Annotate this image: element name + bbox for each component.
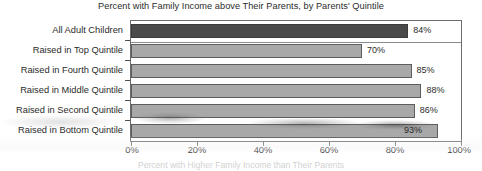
category-label: Raised in Second Quintile [0, 105, 123, 115]
bar-row: 86% [131, 101, 461, 121]
bar-value-label: 88% [421, 85, 444, 95]
category-label: Raised in Fourth Quintile [0, 65, 123, 75]
bar-row: 88% [131, 81, 461, 101]
bar [131, 84, 421, 98]
x-axis-tick-label: 20% [188, 145, 207, 155]
category-label: All Adult Children [0, 25, 123, 35]
y-axis-tick [125, 40, 130, 41]
bar [131, 44, 362, 58]
bar [131, 24, 408, 38]
chart-title: Percent with Family Income above Their P… [0, 1, 482, 11]
y-axis-tick [125, 100, 130, 101]
bar-value-label: 86% [415, 105, 438, 115]
category-label: Raised in Bottom Quintile [0, 125, 123, 135]
x-axis-tick-label: 80% [386, 145, 405, 155]
x-axis-caption: Percent with Higher Family Income than T… [0, 160, 482, 171]
bar-chart: Percent with Family Income above Their P… [0, 0, 482, 171]
category-axis-labels: All Adult ChildrenRaised in Top Quintile… [0, 20, 127, 142]
x-axis-tick-label: 60% [320, 145, 339, 155]
bar-row: 84% [131, 21, 461, 41]
bar [131, 64, 412, 78]
bar [131, 104, 415, 118]
y-axis-tick [125, 120, 130, 121]
bar-value-label: 84% [408, 25, 431, 35]
category-label: Raised in Top Quintile [0, 45, 123, 55]
y-axis-tick [125, 60, 130, 61]
x-axis-tick-label: 40% [254, 145, 273, 155]
plot-area: 84%70%85%88%86%93% [130, 20, 462, 142]
bar-value-label: 70% [362, 45, 385, 55]
bar-value-label: 85% [412, 65, 435, 75]
bar-row: 70% [131, 41, 461, 61]
bar-row: 93% [131, 121, 461, 141]
bar [131, 124, 438, 138]
y-axis-tick [125, 80, 130, 81]
x-axis-tick-label: 0% [125, 145, 138, 155]
x-axis-tick-label: 100% [447, 145, 471, 155]
category-label: Raised in Middle Quintile [0, 85, 123, 95]
bar-value-label: 93% [404, 125, 422, 135]
bar-row: 85% [131, 61, 461, 81]
